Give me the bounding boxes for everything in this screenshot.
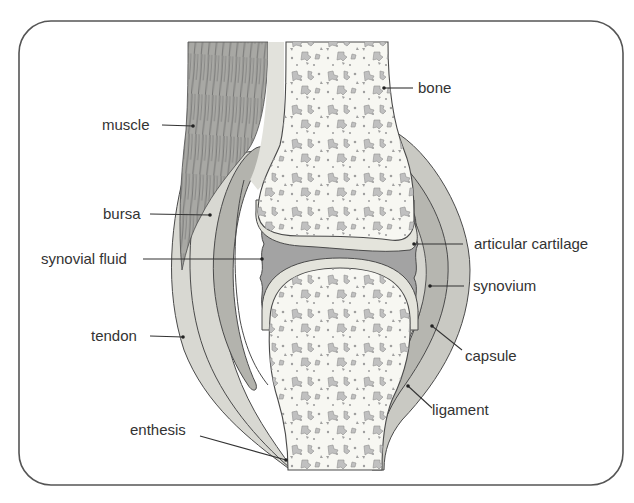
label-bone: bone (418, 79, 451, 96)
label-ligament: ligament (432, 401, 490, 418)
label-muscle: muscle (102, 116, 150, 133)
label-bursa: bursa (103, 205, 141, 222)
label-synovium: synovium (473, 277, 536, 294)
label-tendon: tendon (91, 327, 137, 344)
label-synovial-fluid: synovial fluid (41, 250, 127, 267)
label-capsule: capsule (465, 347, 517, 364)
diagram-canvas: muscle bursa synovial fluid tendon enthe… (0, 0, 634, 503)
label-articular-cartilage: articular cartilage (474, 235, 588, 252)
label-enthesis: enthesis (130, 421, 186, 438)
